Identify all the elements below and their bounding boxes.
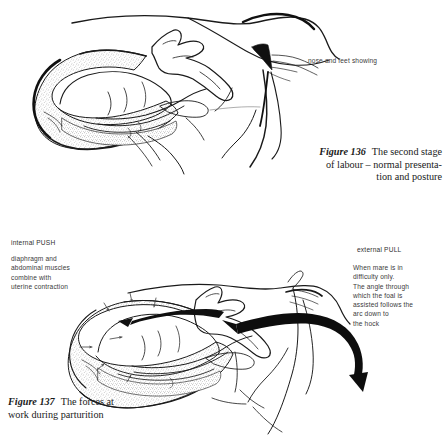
figure-136-caption-line-1: The second stage [372, 146, 442, 157]
annotation-internal-push-body: diaphragm and abdominal muscles combine … [11, 254, 70, 291]
figure-137-caption: Figure 137The forces at work during part… [8, 396, 208, 421]
figure-137-label: Figure 137 [8, 396, 55, 407]
figure-136-label: Figure 136 [319, 146, 366, 157]
book-page: nose and feet showing internal PUSH diap… [0, 0, 446, 439]
annotation-external-pull-heading: external PULL [357, 245, 401, 254]
figure-136-caption-line-2: of labour – normal presenta- [326, 159, 442, 170]
figure-137-caption-line-2: work during parturition [8, 409, 104, 420]
figure-137-caption-line-1: The forces at [61, 396, 114, 407]
figure-137-illustration [0, 0, 446, 439]
annotation-external-pull-body: When mare is in difficulty only. The ang… [353, 263, 413, 328]
figure-136-caption-line-3: tion and posture [376, 171, 442, 182]
figure-136-caption: Figure 136The second stage of labour – n… [274, 146, 442, 184]
annotation-internal-push-heading: internal PUSH [11, 238, 55, 247]
annotation-nose-and-feet: nose and feet showing [308, 56, 377, 65]
